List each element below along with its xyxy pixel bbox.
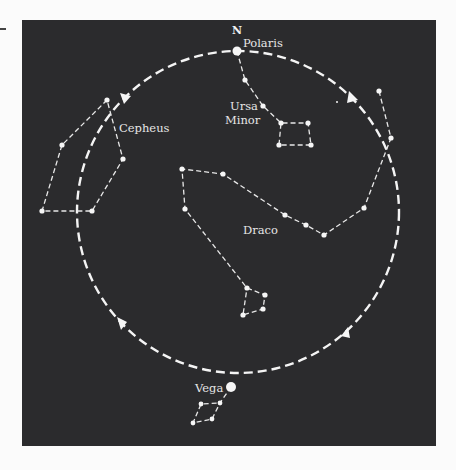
ursa-minor-label-line2: Minor — [225, 113, 261, 127]
vega-star — [226, 382, 236, 392]
constellation-cepheus — [39, 97, 125, 213]
vega-label: Vega — [194, 381, 223, 395]
polaris-label: Polaris — [243, 36, 283, 50]
north-label: N — [232, 24, 242, 37]
ursa-minor-label-line1: Ursa — [230, 99, 258, 113]
arrow-icon — [117, 317, 127, 330]
polaris-star — [233, 47, 242, 56]
draco-label: Draco — [243, 223, 278, 237]
faint-star — [336, 101, 338, 103]
star-chart: N Polaris Ursa Minor Cepheus Draco Vega — [0, 0, 456, 470]
cepheus-label: Cepheus — [119, 121, 170, 135]
